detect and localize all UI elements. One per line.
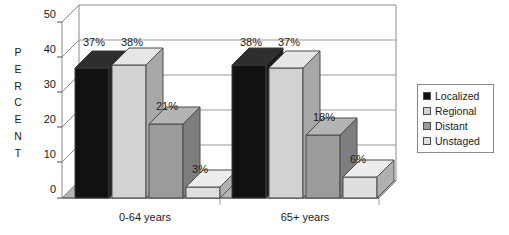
- legend-swatch-icon: [423, 107, 431, 115]
- legend-item-regional[interactable]: Regional: [423, 103, 489, 118]
- bar-chart: P E R C E N T 50 40 30 20 10 0: [0, 0, 509, 235]
- legend-swatch-icon: [423, 92, 431, 100]
- legend-item-distant[interactable]: Distant: [423, 118, 489, 133]
- depth-line-50: [62, 5, 79, 22]
- bar-front-face: [306, 135, 340, 198]
- data-label-g2-distant: 18%: [304, 111, 344, 123]
- data-label-g1-regional: 38%: [112, 36, 152, 48]
- bar-front-face: [269, 68, 303, 198]
- x-category-label-0-64: 0-64 years: [90, 211, 200, 223]
- bar-front-face: [232, 65, 266, 198]
- legend-swatch-icon: [423, 137, 431, 145]
- legend-label: Unstaged: [435, 135, 480, 147]
- legend-label: Distant: [435, 120, 468, 132]
- legend-item-unstaged[interactable]: Unstaged: [423, 133, 489, 148]
- legend-label: Regional: [435, 105, 476, 117]
- bar-front-face: [75, 68, 109, 198]
- data-label-g1-localized: 37%: [74, 36, 114, 48]
- chart-legend: Localized Regional Distant Unstaged: [417, 84, 494, 153]
- bar-front-face: [149, 124, 183, 198]
- bar-front-face: [343, 177, 377, 198]
- bar-front-face: [112, 65, 146, 198]
- legend-item-localized[interactable]: Localized: [423, 88, 489, 103]
- data-label-g2-unstaged: 6%: [341, 153, 375, 165]
- data-label-g1-unstaged: 3%: [183, 163, 217, 175]
- data-label-g2-regional: 37%: [269, 36, 309, 48]
- x-category-label-65-plus: 65+ years: [250, 211, 360, 223]
- data-label-g2-localized: 38%: [231, 36, 271, 48]
- bar-front-face: [186, 187, 220, 198]
- legend-swatch-icon: [423, 122, 431, 130]
- legend-label: Localized: [435, 90, 479, 102]
- data-label-g1-distant: 21%: [147, 100, 187, 112]
